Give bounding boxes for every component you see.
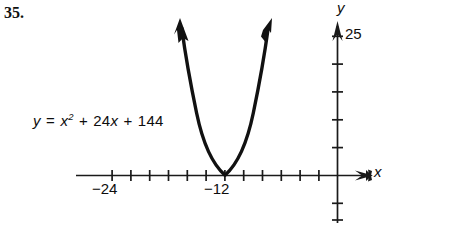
graph-figure: 35. y = x2 + 24x + 144 bbox=[0, 0, 454, 227]
x-tick-label-neg-24: −24 bbox=[92, 180, 117, 197]
parabola-curve bbox=[182, 28, 269, 175]
parabola-left-arrowhead bbox=[174, 18, 189, 43]
y-axis-label: y bbox=[337, 0, 345, 16]
x-tick-label-neg-12: −12 bbox=[204, 180, 229, 197]
x-axis-label: x bbox=[374, 163, 382, 180]
y-tick-label-25: 25 bbox=[345, 25, 362, 42]
